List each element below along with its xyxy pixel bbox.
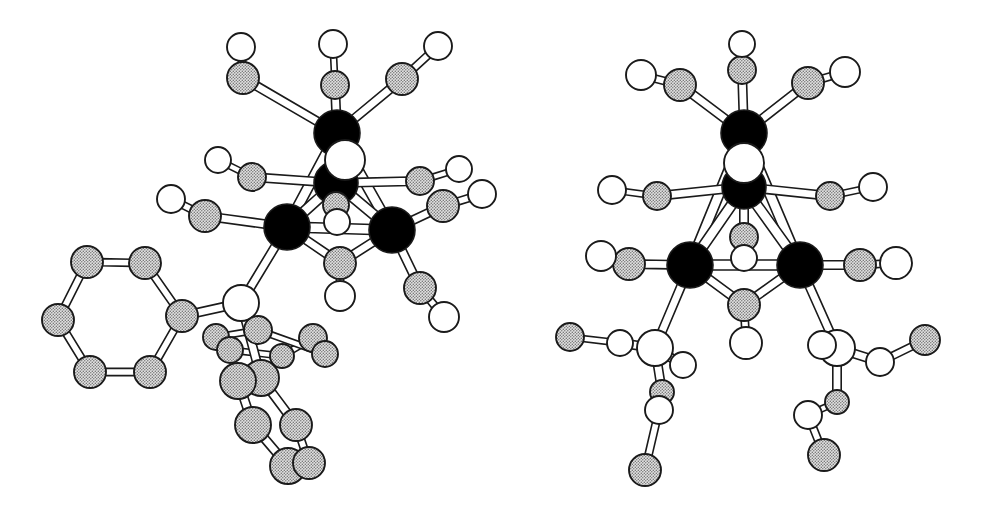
atom-metal (667, 242, 713, 288)
atom-metal (264, 204, 310, 250)
atom-carbon (556, 323, 584, 351)
atom-oxygen (729, 31, 755, 57)
atom-oxygen (830, 57, 860, 87)
bond (738, 81, 747, 113)
atom-carbon (134, 356, 166, 388)
atom-oxygen (319, 30, 347, 58)
atom-phosphorus (637, 330, 673, 366)
atom-phosphorus (223, 285, 259, 321)
atom-carbon (238, 163, 266, 191)
atom-carbon (217, 337, 243, 363)
atom-carbon (74, 356, 106, 388)
atom-carbon (910, 325, 940, 355)
atom-carbon (324, 247, 356, 279)
atom-oxygen (325, 281, 355, 311)
atom-carbon (321, 71, 349, 99)
atom-oxygen (670, 352, 696, 378)
atom-carbon (404, 272, 436, 304)
atom-oxygen (205, 147, 231, 173)
atom-carbon (71, 246, 103, 278)
atom-carbon (220, 363, 256, 399)
atom-carbon (293, 447, 325, 479)
atom-oxygen (429, 302, 459, 332)
atom-carbon (189, 200, 221, 232)
atom-carbon (280, 409, 312, 441)
atom-oxygen (598, 176, 626, 204)
atom-carbon (235, 407, 271, 443)
atom-oxygen (157, 185, 185, 213)
bond (103, 368, 137, 375)
atom-oxygen (325, 140, 365, 180)
atom-oxygen (424, 32, 452, 60)
atom-carbon (312, 341, 338, 367)
atom-carbon (406, 167, 434, 195)
atom-oxygen (880, 247, 912, 279)
atom-carbon (808, 439, 840, 471)
atom-oxygen (724, 143, 764, 183)
atom-oxygen (645, 396, 673, 424)
atom-carbon (816, 182, 844, 210)
atom-carbon (244, 316, 272, 344)
atom-carbon (728, 56, 756, 84)
atom-oxygen (808, 331, 836, 359)
figure-root (0, 0, 1003, 506)
crystal-structure-figure (0, 0, 1003, 506)
atom-oxygen (468, 180, 496, 208)
bond (355, 177, 409, 187)
atom-oxygen (446, 156, 472, 182)
atom-oxygen (227, 33, 255, 61)
atom-carbon (825, 390, 849, 414)
atom-carbon (664, 69, 696, 101)
atom-carbon (844, 249, 876, 281)
atom-metal (369, 207, 415, 253)
atom-carbon (728, 289, 760, 321)
atom-oxygen (586, 241, 616, 271)
bond (100, 259, 132, 267)
atom-oxygen (626, 60, 656, 90)
atom-carbon (629, 454, 661, 486)
atom-carbon (643, 182, 671, 210)
bond (833, 363, 841, 393)
atom-carbon (42, 304, 74, 336)
atom-oxygen (607, 330, 633, 356)
atom-carbon (386, 63, 418, 95)
atom-oxygen (731, 245, 757, 271)
atom-carbon (129, 247, 161, 279)
atom-oxygen (324, 209, 350, 235)
atom-carbon (166, 300, 198, 332)
atom-carbon (613, 248, 645, 280)
atom-oxygen (866, 348, 894, 376)
atom-oxygen (730, 327, 762, 359)
bond (820, 261, 847, 269)
atom-carbon (427, 190, 459, 222)
atom-carbon (792, 67, 824, 99)
atom-metal (777, 242, 823, 288)
bond (642, 260, 670, 269)
atom-oxygen (794, 401, 822, 429)
atom-oxygen (859, 173, 887, 201)
atom-carbon (227, 62, 259, 94)
